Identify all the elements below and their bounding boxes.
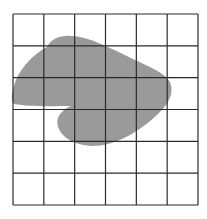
area-grid-diagram bbox=[0, 0, 207, 219]
